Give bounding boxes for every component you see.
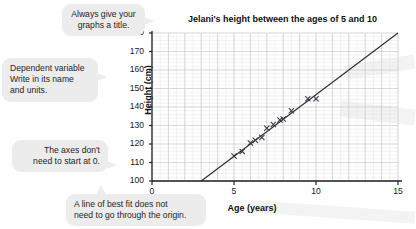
annotation-line: Always give your: [71, 9, 135, 19]
annotation-line: and units.: [10, 85, 47, 95]
annotation-axes-note: The axes don't need to start at 0.: [12, 140, 108, 172]
bubble-tail: [144, 17, 154, 25]
annotation-title-note: Always give your graphs a title.: [62, 4, 145, 36]
annotation-line: The axes don't: [44, 145, 100, 155]
axis-lines: [152, 31, 402, 181]
annotation-line: graphs a title.: [78, 20, 130, 30]
annotation-line: need to go through the origin.: [74, 210, 186, 220]
annotation-dependent-variable-note: Dependent variable Write in its name and…: [2, 58, 98, 102]
annotation-best-fit-note: A line of best fit does not need to go t…: [66, 194, 206, 226]
annotation-line: need to start at 0.: [33, 156, 100, 166]
annotation-line: A line of best fit does not: [74, 199, 168, 209]
bubble-tail: [107, 161, 117, 169]
bubble-tail: [97, 73, 107, 81]
annotation-line: Write in its name: [10, 74, 74, 84]
bubble-tail: [96, 185, 106, 195]
annotation-line: Dependent variable: [10, 63, 85, 73]
